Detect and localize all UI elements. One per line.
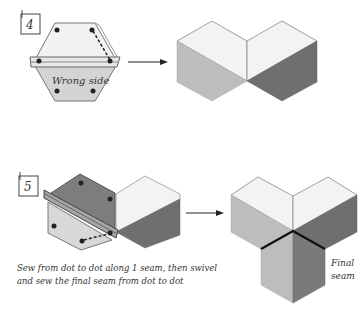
step-5-attached-hexagon (116, 176, 180, 248)
dot-marker (55, 89, 60, 94)
dot-marker (108, 231, 113, 236)
final-seam-label-line-2: seam (331, 271, 355, 281)
step-5-number: 5 (24, 180, 32, 194)
quilting-diagram: 4 Wrong side (0, 0, 364, 317)
dot-marker (55, 28, 60, 33)
step-5-caption-line-2: and sew the final seam from dot to dot (17, 276, 184, 286)
step-5-result-shape (231, 177, 357, 303)
step-5: 5 Sew from dot to dot along 1 seam, then… (17, 172, 357, 303)
step-4: 4 Wrong side (21, 10, 317, 101)
step-5-folded-hexagon (44, 174, 118, 250)
step-5-caption-line-1: Sew from dot to dot along 1 seam, then s… (17, 263, 217, 273)
step-4-number-box: 4 (21, 10, 40, 34)
step-4-result-shape (177, 21, 317, 101)
dot-marker (52, 224, 57, 229)
step-4-folded-hexagon: Wrong side (30, 23, 120, 101)
wrong-side-label: Wrong side (52, 75, 109, 86)
dot-marker (80, 239, 85, 244)
final-seam-label-line-1: Final (330, 258, 354, 268)
dot-marker (91, 89, 96, 94)
dot-marker (108, 197, 113, 202)
step-5-number-box: 5 (19, 172, 38, 196)
step-4-number: 4 (25, 18, 34, 32)
dot-marker (79, 181, 84, 186)
dot-marker (37, 59, 42, 64)
arrow-icon (128, 59, 168, 65)
arrow-icon (186, 210, 224, 216)
